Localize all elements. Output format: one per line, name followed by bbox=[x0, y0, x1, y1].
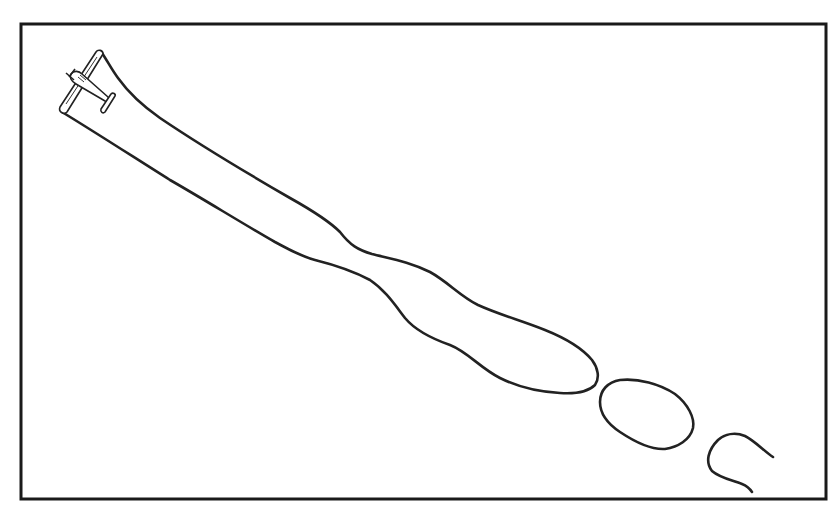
picture-frame bbox=[21, 24, 826, 499]
smoke-puff-open-curl bbox=[708, 434, 773, 492]
smoke-puff-oval bbox=[600, 380, 693, 449]
smoke-trail-main bbox=[62, 53, 598, 393]
illustration-canvas bbox=[0, 0, 839, 514]
